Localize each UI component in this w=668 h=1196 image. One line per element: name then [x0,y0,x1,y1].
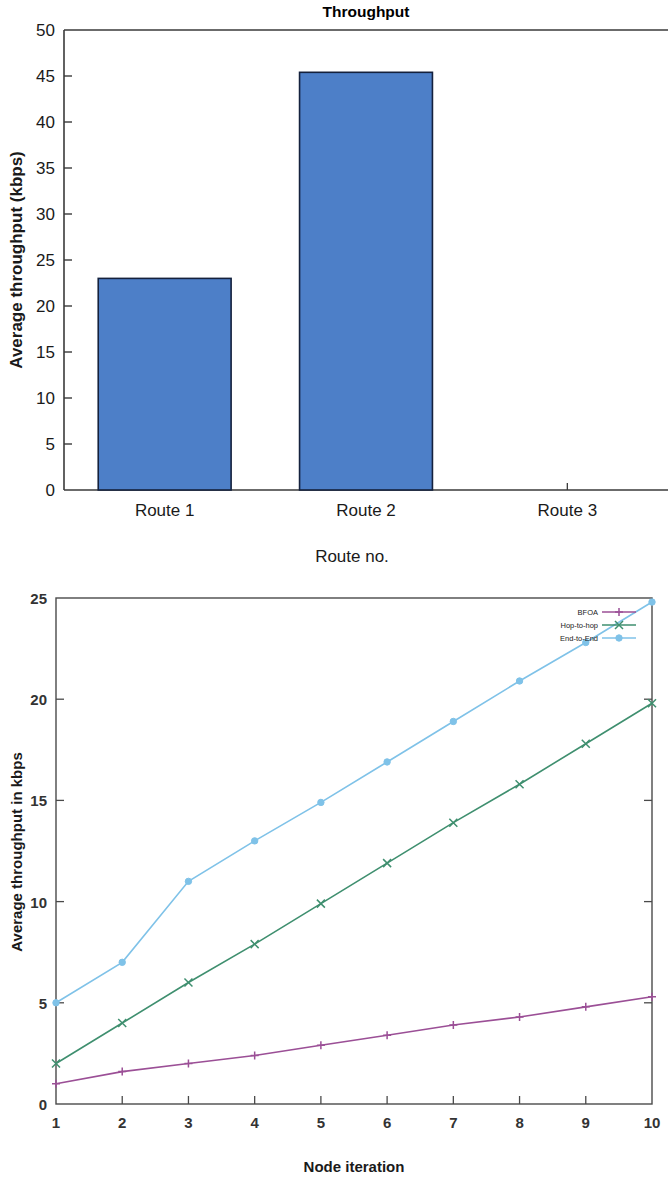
data-point-marker [582,1003,590,1011]
line-chart-svg: 0510152025 12345678910 BFOAHop-to-hopEnd… [0,580,668,1196]
throughput-bar-figure: 05101520253035404550 Route 1Route 2Route… [0,0,668,580]
bar-y-tick-label: 5 [46,435,55,454]
data-point-marker [648,993,656,1001]
data-point-marker [184,979,192,987]
bar-rect [300,72,433,490]
data-point-marker [52,1080,60,1088]
data-point-marker [184,1060,192,1068]
line-series-bfoa [52,993,656,1088]
line-chart-legend: BFOAHop-to-hopEnd-to-End [560,608,636,643]
data-point-marker [516,1013,524,1021]
data-point-marker [615,608,623,616]
legend-label: BFOA [578,608,598,617]
bar-y-tick-label: 35 [36,159,55,178]
data-point-marker [118,1019,126,1027]
data-point-marker [317,1041,325,1049]
bar-y-tick-label: 40 [36,113,55,132]
line-y-tick-label: 5 [39,995,47,1012]
data-point-marker [383,859,391,867]
data-point-marker [384,759,390,765]
data-point-marker [516,678,522,684]
data-point-marker [616,635,622,641]
bar-chart-title: Throughput [323,3,410,20]
data-point-marker [53,1000,59,1006]
line-x-tick-label: 4 [250,1114,259,1131]
data-point-marker [449,819,457,827]
line-y-axis-label: Average throughput in kbps [8,752,25,951]
node-iteration-line-figure: 0510152025 12345678910 BFOAHop-to-hopEnd… [0,580,668,1196]
line-series-hop-to-hop [52,699,656,1067]
bar-series-group [98,72,432,490]
line-x-axis-label: Node iteration [304,1158,405,1175]
bar-y-tick-label: 25 [36,251,55,270]
line-series-group [52,599,656,1088]
line-y-tick-label: 15 [30,792,47,809]
line-x-tick-label: 6 [383,1114,391,1131]
bar-y-tick-label: 20 [36,297,55,316]
bar-y-tick-label: 45 [36,67,55,86]
series-path [56,602,652,1003]
line-plot-area [56,598,652,1104]
bar-x-tick-label: Route 1 [135,501,195,520]
line-x-tick-label: 9 [582,1114,590,1131]
line-y-tick-group: 0510152025 [30,590,652,1113]
legend-label: Hop-to-hop [560,621,598,630]
data-point-marker [450,718,456,724]
data-point-marker [383,1031,391,1039]
data-point-marker [582,740,590,748]
line-y-tick-label: 0 [39,1096,47,1113]
bar-rect [98,278,231,490]
data-point-marker [251,1051,259,1059]
line-y-tick-label: 25 [30,590,47,607]
line-y-tick-label: 20 [30,691,47,708]
bar-x-tick-label: Route 3 [538,501,598,520]
line-x-tick-label: 10 [644,1114,661,1131]
bar-y-tick-label: 50 [36,21,55,40]
series-path [56,703,652,1063]
data-point-marker [185,878,191,884]
line-x-tick-group: 12345678910 [52,1096,661,1131]
line-x-tick-label: 2 [118,1114,126,1131]
legend-label: End-to-End [560,634,598,643]
bar-y-tick-label: 0 [46,481,55,500]
line-x-tick-label: 3 [184,1114,192,1131]
data-point-marker [119,959,125,965]
data-point-marker [449,1021,457,1029]
bar-y-tick-group: 05101520253035404550 [36,21,72,500]
line-x-tick-label: 7 [449,1114,457,1131]
line-x-tick-label: 5 [317,1114,325,1131]
bar-y-tick-label: 15 [36,343,55,362]
bar-y-tick-label: 10 [36,389,55,408]
line-plot-frame [56,598,652,1104]
data-point-marker [118,1068,126,1076]
data-point-marker [317,900,325,908]
line-x-tick-label: 8 [515,1114,523,1131]
data-point-marker [251,838,257,844]
bar-x-axis-label: Route no. [315,547,389,566]
bar-x-tick-label: Route 2 [336,501,396,520]
data-point-marker [516,780,524,788]
line-y-tick-label: 10 [30,894,47,911]
bar-y-tick-label: 30 [36,205,55,224]
data-point-marker [251,940,259,948]
bar-y-axis-label: Average throughput (kbps) [7,151,26,369]
data-point-marker [318,799,324,805]
line-x-tick-label: 1 [52,1114,60,1131]
line-series-end-to-end [53,599,655,1006]
bar-chart-svg: 05101520253035404550 Route 1Route 2Route… [0,0,668,580]
data-point-marker [649,599,655,605]
